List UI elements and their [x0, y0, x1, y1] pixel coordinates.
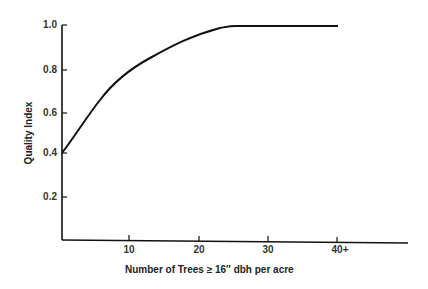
quality-curve	[62, 26, 338, 153]
x-axis: 10 20 30 40+ Number of Trees ≥ 16″ dbh p…	[62, 235, 408, 275]
y-tick-1.0: 1.0	[43, 19, 57, 30]
chart: 1.0 0.8 0.6 0.4 0.2 Quality Index 10 20 …	[0, 0, 428, 289]
x-tick-30: 30	[262, 244, 274, 255]
x-tick-20: 20	[193, 244, 205, 255]
x-axis-label: Number of Trees ≥ 16″ dbh per acre	[125, 264, 294, 275]
x-tick-10: 10	[123, 244, 135, 255]
y-axis: 1.0 0.8 0.6 0.4 0.2 Quality Index	[23, 19, 67, 240]
y-axis-label: Quality Index	[23, 101, 34, 164]
y-tick-0.2: 0.2	[43, 191, 57, 202]
y-tick-0.4: 0.4	[43, 147, 57, 158]
y-tick-0.6: 0.6	[43, 107, 57, 118]
y-tick-0.8: 0.8	[43, 64, 57, 75]
x-tick-40: 40+	[332, 244, 349, 255]
